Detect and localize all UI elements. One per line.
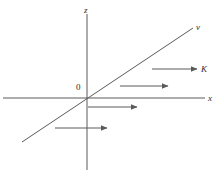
velocity-line-v bbox=[22, 28, 193, 142]
arrow-k-label: K bbox=[201, 65, 207, 74]
velocity-profile-figure: z v K x 0 bbox=[0, 0, 223, 170]
x-axis-label: x bbox=[208, 94, 212, 103]
velocity-line-label: v bbox=[196, 23, 200, 32]
origin-label: 0 bbox=[76, 83, 81, 92]
z-axis-label: z bbox=[84, 6, 88, 15]
figure-canvas bbox=[0, 0, 223, 170]
